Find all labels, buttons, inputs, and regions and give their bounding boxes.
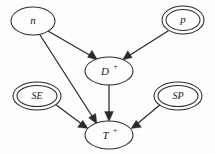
- node-d-plus-border: [85, 57, 133, 85]
- node-n[interactable]: n: [11, 7, 55, 35]
- node-d-plus-label: D: [100, 65, 109, 77]
- node-t-plus[interactable]: T +: [85, 121, 133, 149]
- edge-p-to-d: [123, 31, 169, 60]
- node-sp[interactable]: SP: [154, 82, 202, 110]
- node-n-label: n: [30, 14, 36, 26]
- edge-p-to-d-line: [125, 31, 169, 59]
- node-layer: n p D + SE: [11, 6, 204, 149]
- edge-n-to-t: [40, 35, 97, 124]
- edge-d-to-t-arrowhead: [105, 112, 114, 122]
- edge-n-to-d: [48, 31, 98, 60]
- edge-p-to-d-arrowhead: [123, 51, 133, 60]
- node-t-plus-superscript: +: [113, 126, 117, 135]
- edge-d-to-t: [105, 85, 114, 122]
- edge-n-to-t-arrowhead: [89, 113, 97, 124]
- node-d-plus[interactable]: D +: [85, 57, 133, 85]
- node-p-label: p: [179, 13, 186, 25]
- node-sp-label: SP: [172, 90, 183, 101]
- node-se[interactable]: SE: [13, 82, 61, 110]
- edge-sp-to-t: [131, 104, 161, 129]
- dag-canvas: n p D + SE: [0, 0, 215, 154]
- node-d-plus-superscript: +: [113, 62, 117, 71]
- node-se-label: SE: [31, 90, 42, 101]
- dag-diagram: n p D + SE: [0, 0, 215, 154]
- edge-n-to-d-arrowhead: [88, 50, 98, 60]
- edge-n-to-d-line: [48, 31, 96, 59]
- edge-se-to-t: [55, 104, 88, 129]
- node-p[interactable]: p: [162, 6, 204, 34]
- node-t-plus-border: [85, 121, 133, 149]
- node-t-plus-label: T: [102, 129, 109, 141]
